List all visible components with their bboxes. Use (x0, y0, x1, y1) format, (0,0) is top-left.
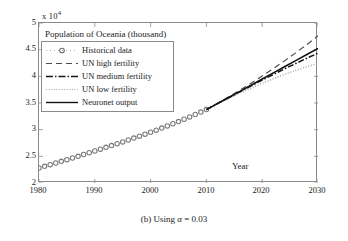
y-axis-multiplier: x 104 (42, 9, 61, 21)
data-point-marker (98, 147, 102, 151)
chart-title: Population of Oceania (thousand) (45, 29, 166, 39)
data-point-marker (193, 112, 197, 116)
data-point-marker (76, 154, 80, 158)
legend-item-un-low-fertility: UN low fertility (45, 83, 170, 96)
data-point-marker (39, 166, 41, 170)
data-point-marker (182, 117, 186, 121)
caption-prefix: (b) Using (141, 214, 178, 224)
y-tick-label: 5 (2, 18, 36, 27)
data-point-marker (187, 115, 191, 119)
data-point-marker (160, 126, 164, 130)
data-point-marker (87, 151, 91, 155)
y-axis-multiplier-exponent: 4 (58, 9, 61, 16)
data-point-marker (93, 149, 97, 153)
x-tick-label: 2020 (241, 186, 281, 195)
data-point-marker (132, 136, 136, 140)
data-point-marker (54, 161, 58, 165)
y-tick-label: 3.5 (2, 98, 36, 107)
y-tick-label: 2.5 (2, 151, 36, 160)
legend-marker-solid-icon (45, 96, 79, 109)
data-point-marker (199, 110, 203, 114)
chart-legend: Historical data UN high fertility UN med… (41, 41, 174, 112)
data-point-marker (121, 140, 125, 144)
legend-label: Historical data (79, 46, 132, 55)
data-point-marker (42, 164, 46, 168)
data-point-marker (126, 138, 130, 142)
legend-item-neuronet-output: Neuronet output (45, 96, 170, 109)
data-point-marker (154, 128, 158, 132)
y-tick-label: 3 (2, 124, 36, 133)
legend-item-un-medium-fertility: UN medium fertility (45, 70, 170, 83)
x-axis-title: Year (232, 161, 249, 171)
legend-label: Neuronet output (79, 98, 137, 107)
x-tick-label: 2030 (297, 186, 337, 195)
caption-value: = 0.03 (182, 214, 207, 224)
series-line-neuronet-output (206, 48, 318, 109)
y-axis-multiplier-base: x 10 (42, 11, 58, 21)
data-point-marker (70, 156, 74, 160)
x-tick-label: 2000 (130, 186, 170, 195)
x-tick-label: 1990 (74, 186, 114, 195)
x-tick-label: 2010 (186, 186, 226, 195)
x-axis-tick-labels: 1980 1990 2000 2010 2020 2030 (0, 186, 348, 200)
data-point-marker (165, 124, 169, 128)
legend-marker-circle-icon (45, 44, 79, 57)
y-axis-tick-labels: 5 4.5 4 3.5 3 2.5 2 (0, 0, 36, 241)
data-point-marker (115, 142, 119, 146)
data-point-marker (137, 134, 141, 138)
legend-item-historical-data: Historical data (45, 44, 170, 57)
data-point-marker (48, 162, 52, 166)
series-line-un-high-fertility (206, 36, 318, 110)
data-point-marker (143, 132, 147, 136)
data-point-marker (176, 119, 180, 123)
data-point-marker (148, 130, 152, 134)
legend-marker-dashed-icon (45, 57, 79, 70)
legend-item-un-high-fertility: UN high fertility (45, 57, 170, 70)
data-point-marker (109, 143, 113, 147)
data-point-marker (65, 157, 69, 161)
legend-label: UN low fertility (79, 85, 137, 94)
x-tick-label: 1980 (18, 186, 58, 195)
data-point-marker (104, 145, 108, 149)
legend-marker-dash-dot-icon (45, 70, 79, 83)
legend-label: UN medium fertility (79, 72, 152, 81)
legend-label: UN high fertility (79, 59, 139, 68)
legend-marker-dotted-icon (45, 83, 79, 96)
data-point-marker (171, 122, 175, 126)
y-tick-label: 4.5 (2, 44, 36, 53)
y-tick-label: 4 (2, 71, 36, 80)
figure-caption: (b) Using α = 0.03 (0, 214, 348, 224)
data-point-marker (81, 152, 85, 156)
figure-panel: x 104 5 4.5 4 3.5 3 2.5 2 1980 1990 2000… (0, 0, 348, 241)
data-point-marker (59, 159, 63, 163)
series-line-un-low-fertility (206, 63, 318, 109)
